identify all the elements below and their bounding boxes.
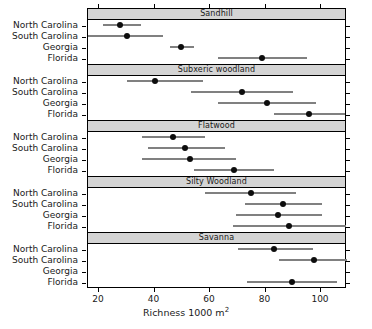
y-axis-label-south-carolina: South Carolina [12,88,78,97]
panel-flatwood: Flatwood [88,120,345,176]
data-row [88,98,345,109]
data-row [88,31,345,42]
data-row [88,132,345,143]
x-axis-tick-label: 20 [92,295,103,304]
y-axis-tick-right [346,216,350,217]
y-axis-label-south-carolina: South Carolina [12,32,78,41]
data-row [88,20,345,31]
y-axis-tick [82,171,86,172]
y-axis-tick-right [346,160,350,161]
y-axis-label-georgia: Georgia [43,267,78,276]
data-row [88,188,345,199]
data-row [88,244,345,255]
y-axis-tick [82,194,86,195]
y-axis-tick [82,37,86,38]
x-axis-tick-label: 40 [148,295,159,304]
data-row [88,109,345,120]
x-axis-tick [320,288,321,292]
y-axis-tick [82,160,86,161]
y-axis-label-florida: Florida [47,222,78,231]
x-axis-title: Richness 1000 m2 [0,306,372,318]
y-axis-label-florida: Florida [47,54,78,63]
data-point-dot [275,212,281,218]
data-row [88,165,345,176]
y-axis-tick [82,104,86,105]
y-axis-tick-right [346,205,350,206]
y-axis-label-georgia: Georgia [43,99,78,108]
y-axis-tick [82,93,86,94]
y-axis-tick-right [346,104,350,105]
x-axis-tick [154,288,155,292]
y-axis-tick [82,59,86,60]
richness-dotplot-chart: North CarolinaSouth CarolinaGeorgiaFlori… [0,0,372,329]
data-row [88,42,345,53]
panel-strip-label: Subxeric woodland [178,66,255,74]
panel-strip-label: Savanna [199,234,234,242]
panel-strip-label: Flatwood [198,122,235,130]
x-axis-tick-label: 80 [259,295,270,304]
y-axis-tick [82,227,86,228]
data-point-dot [280,201,286,207]
y-axis-label-north-carolina: North Carolina [13,77,78,86]
plot-area: SandhillSubxeric woodlandFlatwoodSilty W… [87,8,346,288]
data-row [88,143,345,154]
y-axis-tick-right [346,149,350,150]
y-axis-tick [82,272,86,273]
y-axis-tick [82,138,86,139]
y-axis-tick-right [346,272,350,273]
y-axis-label-north-carolina: North Carolina [13,189,78,198]
data-point-dot [117,22,123,28]
x-axis-tick-top [265,4,266,8]
x-axis-tick [265,288,266,292]
panel-strip: Savanna [88,233,345,244]
y-axis-tick-right [346,115,350,116]
panel-savanna: Savanna [88,232,345,288]
y-axis-tick-right [346,283,350,284]
data-row [88,221,345,232]
data-point-dot [248,190,254,196]
x-axis-tick-label: 60 [203,295,214,304]
panel-body [88,132,345,176]
y-axis-label-south-carolina: South Carolina [12,144,78,153]
data-row [88,199,345,210]
data-point-dot [259,55,265,61]
x-axis-title-exponent: 2 [225,306,229,314]
data-point-dot [286,223,292,229]
data-point-dot [306,111,312,117]
panel-strip-label: Sandhill [200,10,233,18]
y-axis-tick-right [346,93,350,94]
data-row [88,76,345,87]
data-point-dot [178,44,184,50]
y-axis-tick [82,283,86,284]
data-point-dot [182,145,188,151]
y-axis-label-georgia: Georgia [43,43,78,52]
data-point-dot [311,257,317,263]
panel-body [88,76,345,120]
panel-subxeric-woodland: Subxeric woodland [88,64,345,120]
y-axis-label-north-carolina: North Carolina [13,21,78,30]
y-axis-tick-right [346,171,350,172]
panel-strip: Flatwood [88,121,345,132]
confidence-interval-bar [127,80,203,82]
y-axis-tick [82,115,86,116]
x-axis-tick-top [209,4,210,8]
y-axis-tick [82,26,86,27]
y-axis-tick-right [346,48,350,49]
data-point-dot [187,156,193,162]
data-point-dot [152,78,158,84]
y-axis-tick-right [346,59,350,60]
y-axis-tick [82,250,86,251]
y-axis-label-north-carolina: North Carolina [13,133,78,142]
panel-sandhill: Sandhill [88,9,345,64]
y-axis-tick-right [346,138,350,139]
y-axis-tick [82,261,86,262]
panel-strip: Sandhill [88,9,345,20]
data-row [88,210,345,221]
data-point-dot [124,33,130,39]
data-point-dot [239,89,245,95]
y-axis-label-florida: Florida [47,278,78,287]
y-axis-tick-right [346,194,350,195]
y-axis-tick-right [346,261,350,262]
y-axis-tick-right [346,82,350,83]
panel-body [88,20,345,64]
